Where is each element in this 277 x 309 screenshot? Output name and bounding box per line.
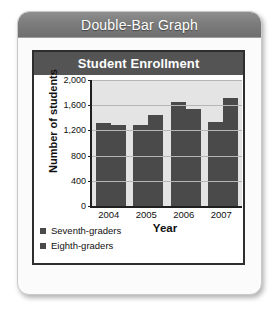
y-tick-label: 1,600 bbox=[52, 100, 86, 110]
chart-frame: Student Enrollment Number of students 04… bbox=[32, 50, 245, 265]
bar-group bbox=[133, 80, 163, 206]
gridline bbox=[92, 105, 242, 106]
legend-label: Eighth-graders bbox=[51, 240, 113, 251]
bar bbox=[148, 115, 163, 206]
y-tick-label: 0 bbox=[52, 201, 86, 211]
legend-item: Eighth-graders bbox=[40, 238, 121, 253]
legend-label: Seventh-graders bbox=[51, 225, 121, 236]
x-tick-label: 2006 bbox=[167, 209, 201, 220]
bar bbox=[133, 125, 148, 206]
bar-series-container bbox=[92, 80, 242, 206]
chart-title: Student Enrollment bbox=[34, 52, 243, 75]
bar bbox=[223, 98, 238, 206]
x-tick-label: 2004 bbox=[92, 209, 126, 220]
y-tick-label: 2,000 bbox=[52, 75, 86, 85]
y-tick-label: 1,200 bbox=[52, 125, 86, 135]
y-tick-mark bbox=[88, 130, 92, 131]
bar bbox=[96, 123, 111, 206]
card-header: Double-Bar Graph bbox=[18, 12, 261, 38]
chart-title-bar: Student Enrollment bbox=[34, 52, 243, 75]
y-tick-label: 400 bbox=[52, 176, 86, 186]
card-header-title: Double-Bar Graph bbox=[18, 12, 261, 38]
y-tick-mark bbox=[88, 156, 92, 157]
y-tick-label: 800 bbox=[52, 151, 86, 161]
bar-group bbox=[208, 80, 238, 206]
bar bbox=[171, 102, 186, 206]
gridline bbox=[92, 156, 242, 157]
plot-wrap: Number of students 04008001,2001,6002,00… bbox=[34, 75, 243, 267]
legend-item: Seventh-graders bbox=[40, 223, 121, 238]
bar-group bbox=[171, 80, 201, 206]
y-tick-mark bbox=[88, 80, 92, 81]
gridline bbox=[92, 80, 242, 81]
x-tick-label: 2007 bbox=[204, 209, 238, 220]
x-tick-label: 2005 bbox=[129, 209, 163, 220]
bar bbox=[186, 109, 201, 206]
y-tick-mark bbox=[88, 105, 92, 106]
legend-swatch-icon bbox=[40, 243, 46, 249]
page-root: Double-Bar Graph Student Enrollment Numb… bbox=[0, 0, 277, 309]
bar-group bbox=[96, 80, 126, 206]
legend-swatch-icon bbox=[40, 228, 46, 234]
gridline bbox=[92, 130, 242, 131]
y-tick-mark bbox=[88, 206, 92, 207]
bar bbox=[208, 122, 223, 206]
gridline bbox=[92, 181, 242, 182]
plot-area bbox=[90, 80, 242, 208]
bar bbox=[111, 125, 126, 206]
y-tick-mark bbox=[88, 181, 92, 182]
double-bar-graph-card: Double-Bar Graph Student Enrollment Numb… bbox=[17, 11, 262, 295]
x-axis-ticks: 2004200520062007 bbox=[90, 209, 240, 220]
chart-legend: Seventh-gradersEighth-graders bbox=[40, 223, 121, 253]
